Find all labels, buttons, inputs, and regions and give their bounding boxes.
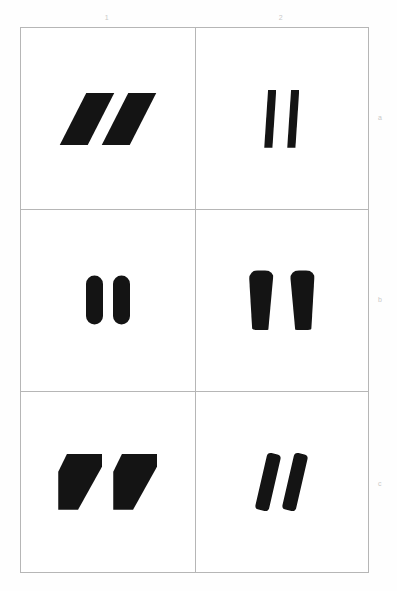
shape-pair-c1: [21, 454, 195, 510]
vertical-capsule-mark: [86, 276, 103, 325]
shape-pair-b2: [196, 270, 369, 330]
figure-plate: 1 2 a b c: [0, 0, 397, 591]
row-label-c: c: [378, 479, 392, 489]
vertical-capsule-mark: [113, 276, 130, 325]
cell-a2: [195, 28, 369, 209]
column-label-2: 2: [261, 13, 301, 23]
cell-b1: [21, 209, 195, 390]
teardrop-wedge-mark: [249, 270, 274, 330]
specimen-grid: [20, 27, 369, 573]
slanted-rounded-bar-mark: [282, 452, 309, 512]
cell-c1: [21, 391, 195, 572]
row-label-a: a: [378, 113, 392, 123]
teardrop-wedge-mark: [290, 270, 315, 330]
shape-pair-c2: [196, 453, 369, 511]
cell-b2: [195, 209, 369, 390]
pentagon-wedge-mark: [58, 454, 102, 510]
narrow-tapered-stroke-mark: [264, 90, 276, 148]
column-label-1: 1: [87, 13, 127, 23]
shape-pair-a2: [196, 90, 369, 148]
pentagon-wedge-mark: [113, 454, 157, 510]
shape-pair-a1: [21, 93, 195, 145]
slanted-rounded-bar-mark: [255, 452, 282, 512]
row-label-b: b: [378, 295, 392, 305]
narrow-tapered-stroke-mark: [287, 90, 299, 148]
shape-pair-b1: [21, 276, 195, 325]
cell-c2: [195, 391, 369, 572]
cell-a1: [21, 28, 195, 209]
